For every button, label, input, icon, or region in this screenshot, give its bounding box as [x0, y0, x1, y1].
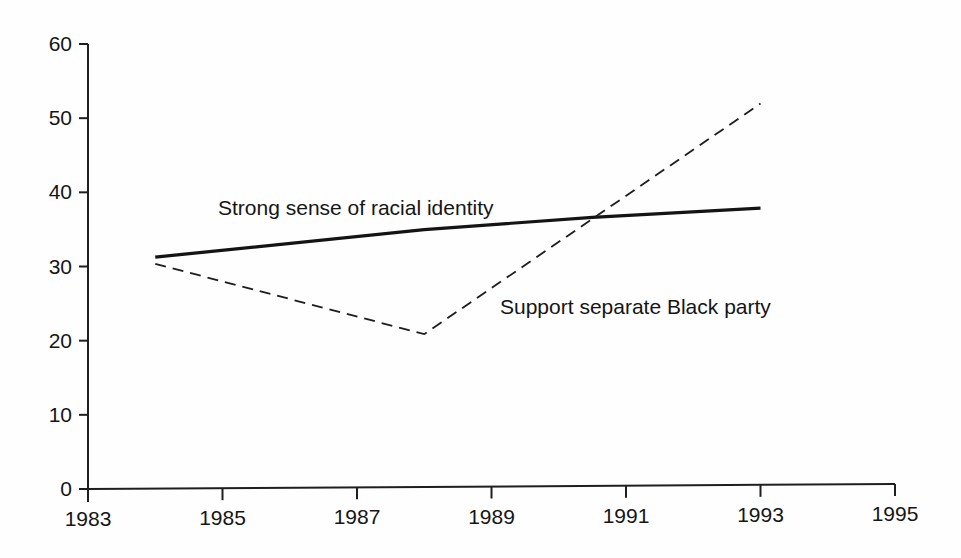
axis-lines	[88, 44, 895, 489]
x-axis-tick-label: 1995	[872, 502, 919, 526]
x-axis-tick-label: 1983	[65, 507, 112, 531]
y-axis-tick-label: 0	[30, 477, 72, 501]
x-axis-tick-label: 1991	[603, 504, 650, 528]
y-axis-tick-label: 30	[30, 255, 72, 279]
y-axis-tick-label: 20	[30, 329, 72, 353]
y-axis-tick-label: 10	[30, 403, 72, 427]
line-chart: 0102030405060 19831985198719891991199319…	[0, 0, 961, 558]
chart-plot-area	[0, 0, 961, 558]
x-axis-tick-label: 1993	[737, 503, 784, 527]
x-axis-tick-label: 1985	[199, 506, 246, 530]
y-axis-ticks	[79, 44, 88, 489]
series-annotation-label: Support separate Black party	[500, 295, 771, 319]
y-axis-tick-label: 40	[30, 180, 72, 204]
y-axis-tick-label: 60	[30, 32, 72, 56]
series-annotation-label: Strong sense of racial identity	[218, 196, 493, 220]
x-axis-tick-label: 1987	[334, 505, 381, 529]
y-axis-tick-label: 50	[30, 106, 72, 130]
x-axis-ticks	[88, 479, 895, 502]
x-axis-tick-label: 1989	[468, 505, 515, 529]
